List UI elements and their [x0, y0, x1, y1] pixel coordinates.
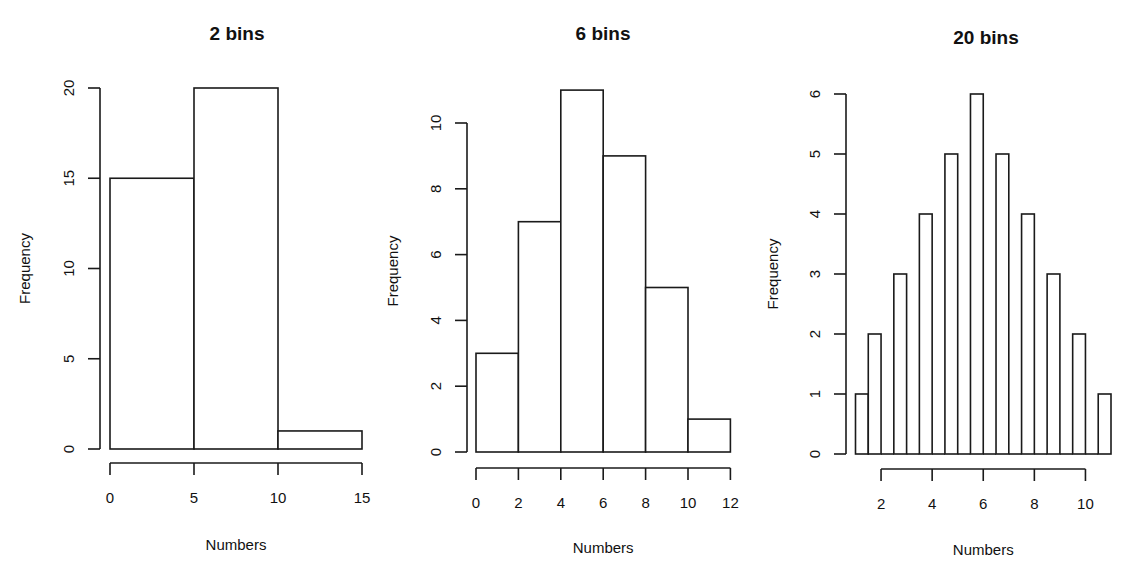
histogram-bar	[603, 156, 645, 452]
chart-title: 2 bins	[210, 23, 265, 44]
y-tick-label: 15	[60, 170, 77, 187]
histogram-bar	[561, 90, 603, 452]
y-tick-label: 0	[60, 445, 77, 453]
y-tick-label: 2	[806, 330, 823, 338]
histogram-bar	[919, 214, 932, 454]
histogram-bar	[688, 419, 730, 452]
histogram-figure: 2 bins Numbers Frequency 05101520 051015…	[0, 0, 1127, 575]
histogram-bar	[1047, 274, 1060, 454]
histogram-bar	[278, 431, 362, 449]
x-tick-label: 4	[928, 495, 936, 512]
x-tick-label: 8	[641, 494, 649, 511]
y-tick-label: 3	[806, 270, 823, 278]
y-tick-label: 6	[427, 250, 444, 258]
x-tick-label: 6	[979, 495, 987, 512]
histogram-bar	[1098, 394, 1111, 454]
bars	[110, 88, 362, 449]
y-tick-label: 10	[427, 115, 444, 132]
y-tick-label: 2	[427, 382, 444, 390]
y-axis: 0123456	[806, 90, 846, 458]
y-tick-label: 5	[806, 150, 823, 158]
y-tick-label: 0	[427, 448, 444, 456]
histogram-panel-20-bins: 20 bins Numbers Frequency 0123456 246810	[764, 27, 1111, 558]
figure-canvas: 2 bins Numbers Frequency 05101520 051015…	[0, 0, 1127, 575]
x-tick-label: 4	[557, 494, 565, 511]
histogram-panel-6-bins: 6 bins Numbers Frequency 0246810 0246810…	[384, 23, 739, 556]
y-tick-label: 5	[60, 355, 77, 363]
histogram-bar	[110, 178, 194, 449]
x-tick-label: 0	[106, 489, 114, 506]
y-axis: 05101520	[60, 80, 100, 454]
histogram-bar	[194, 88, 278, 449]
y-tick-label: 0	[806, 450, 823, 458]
x-axis-label: Numbers	[953, 541, 1014, 558]
x-axis-label: Numbers	[206, 536, 267, 553]
x-tick-label: 10	[270, 489, 287, 506]
x-tick-label: 8	[1030, 495, 1038, 512]
x-axis: 246810	[877, 469, 1094, 512]
x-axis: 024681012	[472, 468, 739, 511]
x-tick-label: 10	[680, 494, 697, 511]
y-axis-label: Frequency	[384, 235, 401, 306]
chart-title: 6 bins	[576, 23, 631, 44]
histogram-bar	[646, 288, 688, 453]
y-axis-label: Frequency	[764, 238, 781, 309]
y-axis: 0246810	[427, 115, 467, 457]
histogram-bar	[970, 94, 983, 454]
x-axis-label: Numbers	[573, 539, 634, 556]
histogram-bar	[856, 394, 869, 454]
x-tick-label: 0	[472, 494, 480, 511]
y-tick-label: 1	[806, 390, 823, 398]
bars	[856, 94, 1112, 454]
histogram-bar	[945, 154, 958, 454]
x-tick-label: 10	[1077, 495, 1094, 512]
y-tick-label: 6	[806, 90, 823, 98]
y-axis-label: Frequency	[16, 233, 33, 304]
x-tick-label: 15	[354, 489, 371, 506]
bars	[476, 90, 730, 452]
histogram-bar	[894, 274, 907, 454]
x-tick-label: 12	[722, 494, 739, 511]
chart-title: 20 bins	[953, 27, 1018, 48]
histogram-bar	[1073, 334, 1086, 454]
histogram-panel-2-bins: 2 bins Numbers Frequency 05101520 051015	[16, 23, 370, 553]
x-tick-label: 2	[877, 495, 885, 512]
histogram-bar	[1022, 214, 1035, 454]
y-tick-label: 20	[60, 80, 77, 97]
x-axis: 051015	[106, 463, 371, 506]
histogram-bar	[518, 222, 560, 452]
histogram-bar	[476, 353, 518, 452]
y-tick-label: 10	[60, 260, 77, 277]
y-tick-label: 4	[806, 210, 823, 218]
y-tick-label: 4	[427, 316, 444, 324]
histogram-bar	[868, 334, 881, 454]
histogram-bar	[996, 154, 1009, 454]
x-tick-label: 5	[190, 489, 198, 506]
x-tick-label: 6	[599, 494, 607, 511]
x-tick-label: 2	[514, 494, 522, 511]
y-tick-label: 8	[427, 185, 444, 193]
